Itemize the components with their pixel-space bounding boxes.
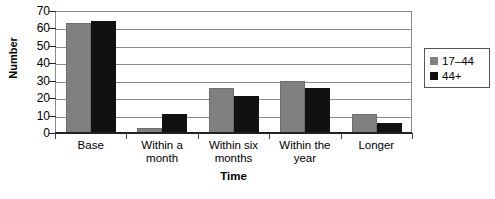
- x-axis-tick-label: Longer: [341, 139, 412, 152]
- x-axis-tickmark: [198, 133, 199, 139]
- y-axis-tickmark: [49, 28, 56, 29]
- x-axis-tickmark: [126, 133, 127, 139]
- x-axis-tick-label-line: month: [126, 152, 197, 165]
- legend-label: 17–44: [442, 55, 474, 67]
- y-axis-tickmark: [49, 98, 56, 99]
- legend: 17–44 44+: [424, 48, 490, 88]
- bar: [209, 88, 234, 133]
- legend-swatch-series-1-icon: [430, 57, 438, 65]
- x-axis-tick-label: Within theyear: [269, 139, 340, 165]
- y-axis-tickmark: [49, 81, 56, 82]
- bar-chart: Number 706050403020100 BaseWithin amonth…: [0, 0, 495, 199]
- bars-layer: [55, 11, 412, 133]
- y-axis-tickmark: [49, 63, 56, 64]
- bar-group: [269, 11, 340, 133]
- x-axis-tick-label-line: Within six: [198, 139, 269, 152]
- x-axis-tickmark: [412, 133, 413, 139]
- y-axis-tick-label: 0: [22, 127, 50, 139]
- y-axis-title: Number: [7, 23, 19, 93]
- x-axis-tick-labels: BaseWithin amonthWithin sixmonthsWithin …: [55, 139, 412, 171]
- y-axis-tickmark: [49, 116, 56, 117]
- y-axis-tick-label: 50: [22, 40, 50, 52]
- legend-item: 44+: [430, 68, 484, 83]
- y-axis-tickmark: [49, 11, 56, 12]
- bar: [162, 114, 187, 133]
- bar: [305, 88, 330, 133]
- y-axis-tick-label: 30: [22, 75, 50, 87]
- bar-group: [55, 11, 126, 133]
- bar: [66, 23, 91, 133]
- y-axis-tick-label: 70: [22, 5, 50, 17]
- y-axis-tick-label: 60: [22, 22, 50, 34]
- y-axis-tick-label: 20: [22, 92, 50, 104]
- y-axis-tickmark: [49, 46, 56, 47]
- x-axis-tick-label-line: Within a: [126, 139, 197, 152]
- x-axis-tick-label-line: year: [269, 152, 340, 165]
- y-axis-tick-labels: 706050403020100: [22, 11, 50, 133]
- x-axis-tick-label-line: Within the: [269, 139, 340, 152]
- x-axis-tickmark: [269, 133, 270, 139]
- y-axis-tick-label: 10: [22, 110, 50, 122]
- bar: [91, 21, 116, 133]
- x-axis-tick-label-line: Longer: [341, 139, 412, 152]
- bar-group: [341, 11, 412, 133]
- x-axis-tickmark: [341, 133, 342, 139]
- bar: [352, 114, 377, 133]
- y-axis-tick-label: 40: [22, 57, 50, 69]
- x-axis-tick-label-line: months: [198, 152, 269, 165]
- bar-group: [198, 11, 269, 133]
- x-axis-tick-label-line: Base: [55, 139, 126, 152]
- bar: [234, 96, 259, 133]
- legend-item: 17–44: [430, 53, 484, 68]
- bar: [280, 81, 305, 133]
- legend-label: 44+: [442, 70, 462, 82]
- legend-swatch-series-2-icon: [430, 72, 438, 80]
- x-axis-tick-label: Base: [55, 139, 126, 152]
- x-axis-tickmark: [55, 133, 56, 139]
- x-axis-tick-label: Within sixmonths: [198, 139, 269, 165]
- bar-group: [126, 11, 197, 133]
- x-axis-tick-label: Within amonth: [126, 139, 197, 165]
- x-axis-line: [55, 132, 412, 134]
- x-axis-title: Time: [55, 170, 412, 182]
